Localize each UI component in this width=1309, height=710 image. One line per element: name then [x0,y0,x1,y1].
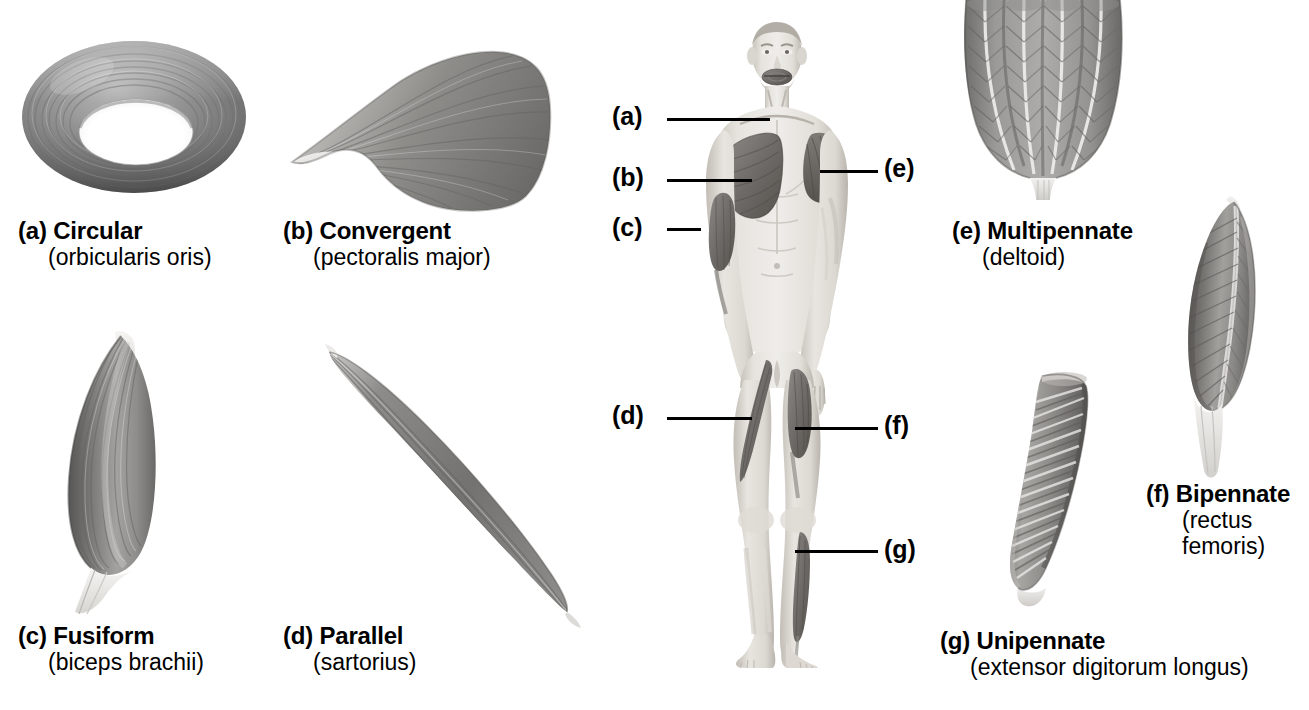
caption-convergent: (b) Convergent (pectoralis major) [283,218,491,271]
convergent-muscle-illustration [280,14,570,219]
leader-line-f [795,427,878,430]
bipennate-muscle-illustration [1138,192,1308,482]
caption-title-bipennate: (f) Bipennate [1146,481,1290,508]
leader-line-a [667,118,770,121]
caption-bipennate: (f) Bipennate (rectus femoris) [1146,481,1290,559]
caption-title-multipennate: (e) Multipennate [952,218,1133,245]
parallel-muscle-illustration [285,318,585,630]
caption-multipennate: (e) Multipennate (deltoid) [952,218,1133,271]
fusiform-muscle-illustration [55,328,230,623]
callout-label-d: (d) [612,403,644,428]
callout-label-a: (a) [612,104,643,129]
caption-example-multipennate: (deltoid) [952,245,1133,271]
anterior-body-figure [660,8,895,668]
caption-parallel: (d) Parallel (sartorius) [283,623,417,676]
caption-fusiform: (c) Fusiform (biceps brachii) [18,623,204,676]
caption-title-unipennate: (g) Unipennate [940,628,1249,655]
caption-example-parallel: (sartorius) [283,650,417,676]
leader-line-c [667,228,701,231]
callout-label-g: (g) [884,537,916,562]
callout-label-f: (f) [884,413,909,438]
callout-label-e: (e) [884,156,915,181]
callout-label-b: (b) [612,165,644,190]
muscle-fascicle-arrangement-figure: (a) (b) (c) (d) (e) (f) (g) (a) Circular… [0,0,1309,710]
caption-example-unipennate: (extensor digitorum longus) [940,655,1249,681]
caption-unipennate: (g) Unipennate (extensor digitorum longu… [940,628,1249,681]
multipennate-muscle-illustration [938,0,1148,200]
leader-line-b [667,179,752,182]
caption-example-fusiform: (biceps brachii) [18,650,204,676]
circular-muscle-illustration [14,14,264,214]
callout-label-c: (c) [612,215,643,240]
caption-example-convergent: (pectoralis major) [283,245,491,271]
caption-title-circular: (a) Circular [18,218,212,245]
caption-title-convergent: (b) Convergent [283,218,491,245]
unipennate-muscle-illustration [986,362,1126,612]
caption-example-bipennate-line2: femoris) [1146,534,1290,560]
caption-circular: (a) Circular (orbicularis oris) [18,218,212,271]
caption-example-bipennate-line1: (rectus [1146,508,1290,534]
leader-line-e [820,170,878,173]
leader-line-d [667,417,752,420]
caption-example-circular: (orbicularis oris) [18,245,212,271]
caption-title-fusiform: (c) Fusiform [18,623,204,650]
leader-line-g [795,550,878,553]
caption-title-parallel: (d) Parallel [283,623,417,650]
